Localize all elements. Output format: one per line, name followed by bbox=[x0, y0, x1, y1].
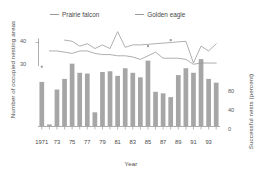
bar bbox=[70, 64, 75, 126]
bar bbox=[191, 73, 196, 126]
x-tick-label: 85 bbox=[145, 139, 151, 145]
chart-legend: Prairie falcon Golden eagle bbox=[50, 8, 250, 20]
x-tick-label: 91 bbox=[190, 139, 196, 145]
bar bbox=[146, 61, 151, 126]
asterisk-marker bbox=[147, 45, 149, 47]
bar bbox=[123, 68, 128, 126]
bar bbox=[138, 77, 143, 126]
bar bbox=[153, 92, 158, 126]
x-tick-label: 73 bbox=[54, 139, 60, 145]
y-tick-label-right-40: 40 bbox=[228, 107, 234, 113]
bar-series-successful-nests bbox=[39, 59, 218, 126]
x-axis-tick-labels: 19717375777981838587899193 bbox=[0, 139, 262, 151]
bar bbox=[77, 73, 82, 126]
bar bbox=[115, 76, 120, 126]
bar bbox=[176, 75, 181, 126]
bar bbox=[206, 79, 211, 126]
y-tick-label-right-0: 0 bbox=[228, 126, 231, 132]
bar bbox=[47, 124, 52, 126]
legend-label-prairie-falcon: Prairie falcon bbox=[62, 11, 99, 18]
legend-label-golden-eagle: Golden eagle bbox=[147, 11, 185, 18]
bar bbox=[100, 72, 105, 126]
x-tick-label: 89 bbox=[175, 139, 181, 145]
bar bbox=[168, 97, 173, 126]
x-tick-label: 77 bbox=[84, 139, 90, 145]
bar bbox=[130, 73, 135, 126]
plot-canvas bbox=[38, 26, 220, 136]
bar bbox=[85, 74, 90, 126]
asterisk-marker bbox=[170, 39, 172, 41]
y-tick-label-right-80: 80 bbox=[228, 88, 234, 94]
bar bbox=[161, 93, 166, 126]
bar bbox=[39, 82, 44, 126]
x-tick-label: 81 bbox=[114, 139, 120, 145]
legend-item-golden-eagle: Golden eagle bbox=[135, 11, 185, 18]
x-tick-label: 83 bbox=[130, 139, 136, 145]
y-tick-label-left-40: 40 bbox=[20, 38, 26, 44]
y-axis-left-spine bbox=[31, 26, 41, 66]
x-tick-label: 1971 bbox=[35, 139, 48, 145]
legend-item-prairie-falcon: Prairie falcon bbox=[50, 11, 99, 18]
chart-figure: Prairie falcon Golden eagle Number of oc… bbox=[0, 0, 262, 175]
x-tick-label: 75 bbox=[69, 139, 75, 145]
x-tick-label: 93 bbox=[205, 139, 211, 145]
bar bbox=[55, 90, 60, 126]
y-axis-right-title: Successful nests (percent) bbox=[247, 52, 254, 172]
y-tick-label-left-30: 30 bbox=[20, 61, 26, 67]
bar bbox=[93, 112, 98, 126]
x-tick-label: 87 bbox=[160, 139, 166, 145]
asterisk-marker bbox=[41, 66, 43, 68]
x-tick-label: 79 bbox=[99, 139, 105, 145]
x-axis-title: Year bbox=[0, 160, 262, 167]
line-series-prairie-falcon bbox=[65, 32, 217, 63]
legend-line-swatch bbox=[50, 14, 59, 15]
bar bbox=[184, 68, 189, 126]
y-axis-left-title: Number of occupied nesting areas bbox=[9, 10, 16, 130]
bar bbox=[199, 59, 204, 126]
legend-line-swatch bbox=[135, 14, 144, 15]
bar bbox=[214, 83, 219, 126]
plot-area bbox=[38, 26, 220, 136]
bar bbox=[62, 79, 67, 126]
bar bbox=[108, 71, 113, 126]
